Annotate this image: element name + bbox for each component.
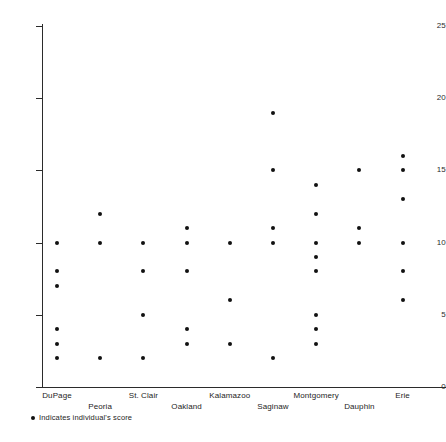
- data-point: [314, 241, 318, 245]
- data-point: [55, 327, 59, 331]
- x-axis-category-label: Saginaw: [257, 402, 288, 411]
- data-point: [185, 226, 189, 230]
- data-point: [271, 111, 275, 115]
- x-axis-category-label: Dauphin: [344, 402, 375, 411]
- data-points-layer: [43, 26, 446, 387]
- y-axis-tick: [36, 243, 43, 244]
- data-point: [141, 313, 145, 317]
- x-axis-category-label: Erie: [395, 391, 410, 400]
- x-axis-category-label: DuPage: [42, 391, 72, 400]
- data-point: [55, 284, 59, 288]
- data-point: [314, 342, 318, 346]
- x-axis-line: [42, 387, 446, 388]
- x-axis-category-label: Kalamazoo: [209, 391, 250, 400]
- data-point: [185, 327, 189, 331]
- data-point: [314, 327, 318, 331]
- data-point: [401, 197, 405, 201]
- data-point: [401, 154, 405, 158]
- y-axis-tick: [36, 98, 43, 99]
- data-point: [98, 241, 102, 245]
- data-point: [185, 241, 189, 245]
- data-point: [314, 255, 318, 259]
- scatter-chart: 0510152025 DuPagePeoriaSt. ClairOaklandK…: [0, 0, 446, 442]
- x-axis-category-label: St. Clair: [129, 391, 158, 400]
- y-axis-tick: [36, 170, 43, 171]
- data-point: [55, 342, 59, 346]
- data-point: [357, 241, 361, 245]
- data-point: [228, 342, 232, 346]
- y-axis-tick: [36, 387, 43, 388]
- data-point: [141, 241, 145, 245]
- data-point: [185, 342, 189, 346]
- x-axis-category-label: Montgomery: [293, 391, 338, 400]
- data-point: [271, 226, 275, 230]
- x-axis-category-label: Oakland: [171, 402, 202, 411]
- data-point: [271, 168, 275, 172]
- data-point: [55, 241, 59, 245]
- data-point: [55, 269, 59, 273]
- data-point: [141, 356, 145, 360]
- y-axis-tick: [36, 26, 43, 27]
- data-point: [314, 212, 318, 216]
- y-axis-tick: [36, 315, 43, 316]
- data-point: [401, 298, 405, 302]
- data-point: [401, 168, 405, 172]
- data-point: [314, 183, 318, 187]
- data-point: [357, 226, 361, 230]
- data-point: [98, 356, 102, 360]
- data-point: [314, 313, 318, 317]
- data-point: [314, 269, 318, 273]
- data-point: [271, 356, 275, 360]
- filled-circle-marker-icon: [31, 416, 35, 420]
- x-axis-category-label: Peoria: [88, 402, 112, 411]
- data-point: [271, 241, 275, 245]
- data-point: [141, 269, 145, 273]
- chart-legend: Indicates individual's score: [31, 413, 132, 422]
- data-point: [98, 212, 102, 216]
- data-point: [228, 298, 232, 302]
- data-point: [401, 269, 405, 273]
- legend-label: Indicates individual's score: [39, 413, 132, 422]
- data-point: [185, 269, 189, 273]
- data-point: [401, 241, 405, 245]
- data-point: [55, 356, 59, 360]
- data-point: [357, 168, 361, 172]
- data-point: [228, 241, 232, 245]
